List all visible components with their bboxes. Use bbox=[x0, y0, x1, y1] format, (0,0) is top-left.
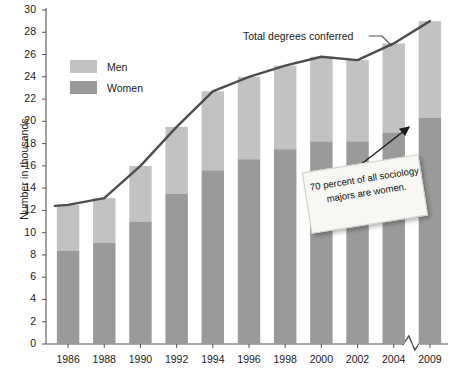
bar-segment-men bbox=[346, 60, 368, 141]
line-series-annotation: Total degrees conferred bbox=[243, 30, 353, 42]
bar-segment-women bbox=[238, 159, 260, 344]
x-tick-label: 2009 bbox=[410, 353, 450, 365]
x-tick-label: 1988 bbox=[84, 353, 124, 365]
y-tick-label: 2 bbox=[14, 315, 36, 327]
bar-segment-men bbox=[419, 21, 441, 118]
y-tick-label: 6 bbox=[14, 270, 36, 282]
bar-segment-men bbox=[93, 198, 115, 243]
x-tick-label: 1998 bbox=[265, 353, 305, 365]
y-tick-label: 28 bbox=[14, 25, 36, 37]
x-tick-label: 2000 bbox=[301, 353, 341, 365]
x-tick-label: 1992 bbox=[157, 353, 197, 365]
sociology-degrees-chart: Number in thousands 02468101214161820222… bbox=[0, 0, 453, 374]
bar-segment-men bbox=[274, 66, 296, 150]
x-tick-label: 1986 bbox=[48, 353, 88, 365]
y-tick-label: 16 bbox=[14, 159, 36, 171]
y-tick-label: 30 bbox=[14, 3, 36, 15]
bar-segment-women bbox=[57, 250, 79, 344]
y-tick-label: 10 bbox=[14, 226, 36, 238]
bar-segment-men bbox=[57, 205, 79, 251]
legend-label: Women bbox=[107, 82, 143, 94]
bar-segment-women bbox=[419, 118, 441, 344]
y-tick-label: 12 bbox=[14, 203, 36, 215]
legend-swatches bbox=[70, 60, 97, 94]
bar-segment-men bbox=[202, 91, 224, 170]
legend-label: Men bbox=[107, 61, 127, 73]
bar-segment-women bbox=[165, 194, 187, 344]
y-tick-label: 24 bbox=[14, 70, 36, 82]
x-tick-label: 1990 bbox=[120, 353, 160, 365]
y-tick-label: 14 bbox=[14, 181, 36, 193]
x-tick-label: 2002 bbox=[338, 353, 378, 365]
y-tick-label: 4 bbox=[14, 292, 36, 304]
legend-swatch bbox=[70, 60, 97, 73]
y-tick-label: 22 bbox=[14, 92, 36, 104]
bar-segment-women bbox=[129, 222, 151, 344]
bar-segment-men bbox=[310, 57, 332, 142]
legend-swatch bbox=[70, 81, 97, 94]
y-tick-label: 26 bbox=[14, 48, 36, 60]
x-tick-label: 1996 bbox=[229, 353, 269, 365]
bar-segment-women bbox=[202, 170, 224, 344]
bar-segment-men bbox=[238, 77, 260, 159]
bar-segment-women bbox=[93, 243, 115, 344]
x-tick-label: 1994 bbox=[193, 353, 233, 365]
y-tick-label: 8 bbox=[14, 248, 36, 260]
bar-segment-men bbox=[383, 43, 405, 132]
bar-segment-women bbox=[274, 149, 296, 344]
x-tick-label: 2004 bbox=[374, 353, 414, 365]
y-tick-label: 0 bbox=[14, 337, 36, 349]
y-tick-label: 20 bbox=[14, 114, 36, 126]
y-tick-label: 18 bbox=[14, 137, 36, 149]
